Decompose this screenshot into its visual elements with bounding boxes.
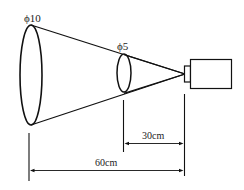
near-distance-label: 30cm [142,130,164,141]
arrowhead-left-30 [125,142,130,145]
large-cross-section [20,25,42,125]
large-diameter-label: ϕ10 [24,12,41,24]
cone-top-edge-right [124,55,185,74]
cone-diagram: ϕ10 ϕ5 30cm 60cm [0,0,244,190]
small-cross-section [117,54,131,92]
arrowhead-left-60 [30,169,35,172]
small-diameter-label: ϕ5 [117,40,129,52]
camera-lens [185,66,191,82]
far-distance-label: 60cm [95,157,117,168]
arrowhead-right-60 [179,169,184,172]
cone-bottom-edge-right [124,74,185,93]
camera-body [191,60,232,89]
arrowhead-right-30 [179,142,184,145]
